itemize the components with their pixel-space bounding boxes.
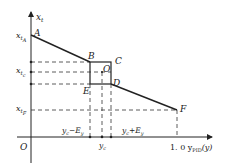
point-O-center: O [103,64,111,74]
tick-x-tc: xtc [16,66,26,78]
tick-yc-plus-Ey: yc+Ey [121,126,144,137]
point-E: E [82,86,90,96]
y-axis-label: xt [36,12,44,23]
tick-yc-minus-Ey: yc−Ey [61,126,84,137]
point-B: B [87,51,95,61]
tick-x-tA: xtA [16,31,27,43]
curve-D-F [111,84,177,110]
x-axis-label: 1. 0 yPID(y) [170,143,212,153]
tick-x-tF: xtF [16,104,27,116]
point-A: A [33,28,41,38]
point-D: D [112,78,120,88]
point-F: F [179,104,187,114]
piecewise-diagram: xt xtA xtc xtF A B C O D E F O yc−Ey yc … [0,0,232,163]
point-C: C [115,56,122,66]
origin-label: O [20,142,28,152]
tick-yc: yc [98,141,106,151]
curve-A-B [31,35,90,62]
